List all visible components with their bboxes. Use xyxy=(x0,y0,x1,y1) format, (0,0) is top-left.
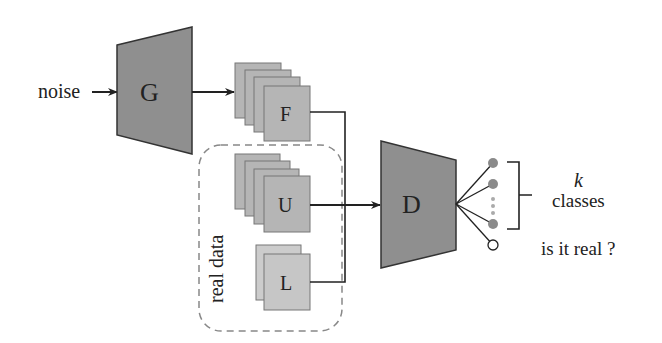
class-node xyxy=(488,219,498,229)
labeled-stack: L xyxy=(256,245,310,310)
labeled-label: L xyxy=(280,272,292,294)
unlabeled-stack: U xyxy=(235,154,310,232)
class-node xyxy=(488,158,498,168)
real-fake-node xyxy=(488,240,498,250)
merge-line xyxy=(310,112,345,282)
classes-label: classes xyxy=(552,190,605,211)
classes-brace xyxy=(507,162,532,229)
fake-label: F xyxy=(280,103,291,125)
generator-block: G xyxy=(117,27,192,154)
unlabeled-label: U xyxy=(278,194,293,216)
generator-label: G xyxy=(140,78,159,107)
is-it-real-label: is it real ? xyxy=(541,238,615,259)
ellipsis-dot xyxy=(491,204,495,208)
ellipsis-dot xyxy=(491,211,495,215)
noise-label: noise xyxy=(38,80,80,102)
class-node xyxy=(488,179,498,189)
discriminator-block: D xyxy=(381,141,456,268)
real-data-label: real data xyxy=(205,235,227,303)
k-label: k xyxy=(574,169,584,191)
gan-diagram: noise G F real data U L D xyxy=(0,0,662,343)
discriminator-label: D xyxy=(402,190,421,219)
fake-stack: F xyxy=(235,63,310,141)
ellipsis-dot xyxy=(491,197,495,201)
output-lines xyxy=(456,163,493,245)
